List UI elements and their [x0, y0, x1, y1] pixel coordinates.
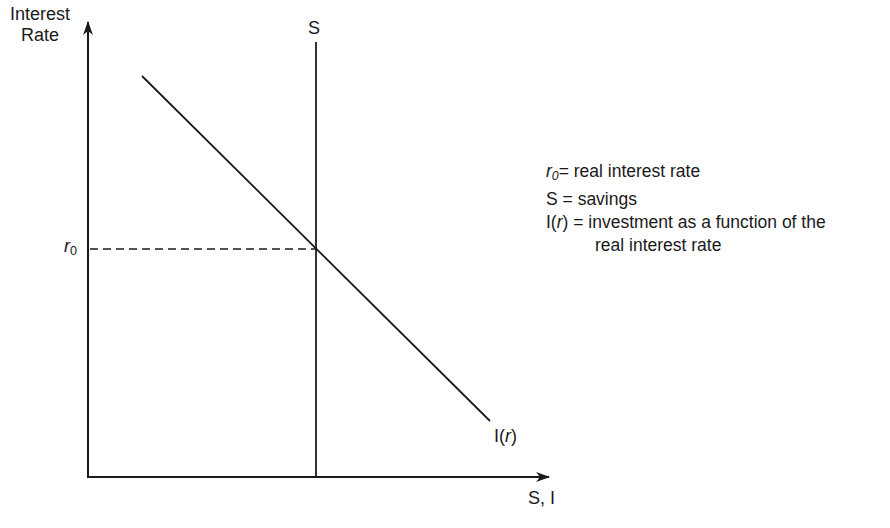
y-axis-label-line2: Rate: [4, 25, 76, 46]
x-axis-label: S, I: [528, 488, 555, 509]
investment-label-prefix: I(: [494, 426, 505, 446]
legend-s-text: = savings: [558, 189, 637, 209]
legend-item-r0: r0= real interest rate: [546, 160, 826, 188]
r0-marker-label: r0: [64, 236, 77, 262]
legend-item-savings: S = savings: [546, 188, 826, 211]
y-axis-label: Interest Rate: [4, 4, 76, 46]
y-axis-label-line1: Interest: [4, 4, 76, 25]
legend-r0-text: = real interest rate: [559, 161, 701, 181]
diagram-canvas: [0, 0, 890, 528]
r0-sub: 0: [70, 244, 77, 258]
investment-label-suffix: ): [511, 426, 517, 446]
legend-i-prefix: I(: [546, 212, 557, 232]
savings-curve-label: S: [308, 18, 320, 39]
investment-curve-label: I(r): [494, 426, 517, 447]
legend-item-investment-cont: real interest rate: [546, 234, 826, 257]
legend-s-symbol: S: [546, 189, 558, 209]
legend-i-text: = investment as a function of the: [568, 212, 825, 232]
legend-r0-sub: 0: [552, 169, 559, 183]
legend: r0= real interest rate S = savings I(r) …: [546, 160, 826, 257]
legend-item-investment: I(r) = investment as a function of the: [546, 211, 826, 234]
